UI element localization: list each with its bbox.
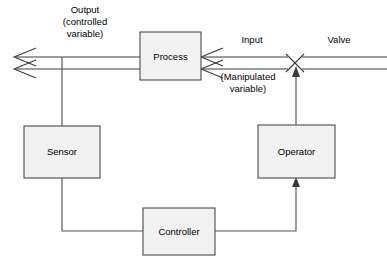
block-controller[interactable]: Controller bbox=[143, 208, 215, 255]
output-flow-pipe bbox=[14, 48, 140, 78]
valve-label-text: Valve bbox=[327, 34, 350, 45]
block-process-label: Process bbox=[153, 51, 188, 62]
diagram-canvas: Process Sensor Operator Controller Outpu… bbox=[0, 0, 387, 270]
supply-pipe bbox=[302, 57, 387, 69]
operator-to-valve-line bbox=[292, 66, 300, 125]
block-sensor-label: Sensor bbox=[47, 146, 77, 157]
sensor-to-controller-line bbox=[62, 178, 143, 231]
annotation-manipulated: (Manipulated variable) bbox=[221, 71, 276, 94]
annotation-output: Output (controlled variable) bbox=[63, 4, 107, 39]
annotation-input: Input bbox=[241, 34, 262, 45]
manipulated-label-line2: variable) bbox=[230, 83, 266, 94]
annotation-valve: Valve bbox=[327, 34, 350, 45]
block-operator[interactable]: Operator bbox=[258, 125, 335, 178]
block-operator-label: Operator bbox=[278, 146, 316, 157]
manipulated-label-line1: (Manipulated bbox=[221, 71, 276, 82]
output-label-line1: Output bbox=[71, 4, 100, 15]
block-process[interactable]: Process bbox=[140, 32, 201, 80]
output-label-line3: variable) bbox=[67, 28, 103, 39]
block-sensor[interactable]: Sensor bbox=[24, 126, 100, 178]
block-controller-label: Controller bbox=[158, 226, 199, 237]
controller-to-operator-line bbox=[215, 177, 300, 231]
control-loop-diagram: Process Sensor Operator Controller Outpu… bbox=[0, 0, 387, 270]
input-label-text: Input bbox=[241, 34, 262, 45]
output-label-line2: (controlled bbox=[63, 16, 107, 27]
